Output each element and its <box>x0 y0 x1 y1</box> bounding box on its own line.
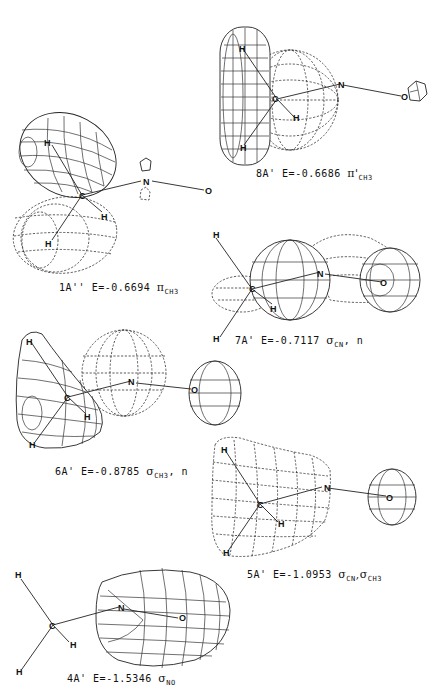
atom-h: H <box>213 334 220 344</box>
orbital-energy: E=-0.6686 <box>282 168 341 179</box>
atom-n: N <box>317 269 324 279</box>
orbital-energy: E=-1.0953 <box>273 569 332 580</box>
orbital-extra-subscript: CH3 <box>368 575 382 583</box>
atom-c: C <box>49 621 56 631</box>
atom-h: H <box>213 230 220 240</box>
atom-h: H <box>16 667 23 677</box>
atom-h: H <box>45 239 52 249</box>
panel-6a-prime: H C H H N O <box>16 330 241 450</box>
orbital-subscript: CH3 <box>165 288 179 296</box>
positive-lobe <box>5 96 131 214</box>
orbital-label: 6A' <box>55 466 75 477</box>
orbital-subscript: NO <box>166 679 175 687</box>
orbital-label: 4A' <box>67 673 87 684</box>
atom-c: C <box>257 500 264 510</box>
atom-h: H <box>70 640 77 650</box>
orbital-label: 5A' <box>247 569 267 580</box>
positive-lobe <box>96 568 230 668</box>
negative-lobe <box>8 190 122 280</box>
orbital-label: 8A' <box>256 168 276 179</box>
orbital-label: 7A' <box>235 335 255 346</box>
atom-n: N <box>143 177 150 187</box>
orbital-subscript: CH3 <box>154 472 168 480</box>
atom-o: O <box>380 278 387 288</box>
atom-o: O <box>386 493 393 503</box>
panel-8a-prime: H C H H N O <box>220 27 427 165</box>
atom-h: H <box>278 519 285 529</box>
caption-7a-prime: 7A' E=-0.7117 σCN, n <box>235 334 363 349</box>
atom-c: C <box>249 284 256 294</box>
atom-h: H <box>239 44 246 54</box>
orbital-subscript: CN <box>346 575 355 583</box>
atom-h: H <box>240 143 247 153</box>
orbital-extra: ,σ <box>356 568 368 581</box>
atom-n: N <box>118 603 125 613</box>
atom-h: H <box>221 445 228 455</box>
atom-h: H <box>26 337 33 347</box>
caption-8a-prime: 8A' E=-0.6686 π'CH3 <box>256 167 373 182</box>
panel-4a-prime: H C H H N O <box>15 568 230 677</box>
orbital-subscript: CH3 <box>359 174 373 182</box>
atom-n: N <box>338 80 345 90</box>
caption-1a-double-prime: 1A'' E=-0.6694 πCH3 <box>59 281 179 296</box>
atom-h: H <box>293 113 300 123</box>
panel-5a-prime: H C H H N O <box>212 437 416 558</box>
caption-4a-prime: 4A' E=-1.5346 σNO <box>67 672 176 687</box>
orbital-energy: E=-0.8785 <box>81 466 140 477</box>
orbital-extra: , n <box>344 335 364 346</box>
panel-7a-prime: H C H H N O <box>212 230 420 344</box>
atom-o: O <box>205 186 212 196</box>
orbital-energy: E=-0.7117 <box>261 335 320 346</box>
orbital-figure: H C H H N O H C H H N O <box>0 0 438 689</box>
orbital-extra: , n <box>168 466 188 477</box>
panel-1a-double-prime: H C H H N O <box>5 96 212 280</box>
atom-h: H <box>270 304 277 314</box>
orbital-subscript: CN <box>334 341 343 349</box>
orbital-label: 1A'' <box>59 282 85 293</box>
orbital-energy: E=-0.6694 <box>92 282 151 293</box>
atom-n: N <box>324 483 331 493</box>
atom-h: H <box>101 212 108 222</box>
atom-h: H <box>223 548 230 558</box>
atom-h: H <box>44 138 51 148</box>
negative-lobe <box>212 437 331 556</box>
atom-o: O <box>191 385 198 395</box>
atom-c: C <box>272 94 279 104</box>
orbital-energy: E=-1.5346 <box>93 673 152 684</box>
atom-h: H <box>15 570 22 580</box>
caption-6a-prime: 6A' E=-0.8785 σCH3, n <box>55 465 188 480</box>
atom-h: H <box>29 440 36 450</box>
atom-o: O <box>179 613 186 623</box>
atom-o: O <box>401 92 408 102</box>
atom-c: C <box>79 191 86 201</box>
orbital-type: π <box>157 281 165 294</box>
orbital-type: π' <box>347 167 358 180</box>
atom-n: N <box>128 377 135 387</box>
caption-5a-prime: 5A' E=-1.0953 σCN,σCH3 <box>247 568 382 583</box>
atom-h: H <box>84 412 91 422</box>
atom-c: C <box>64 393 71 403</box>
